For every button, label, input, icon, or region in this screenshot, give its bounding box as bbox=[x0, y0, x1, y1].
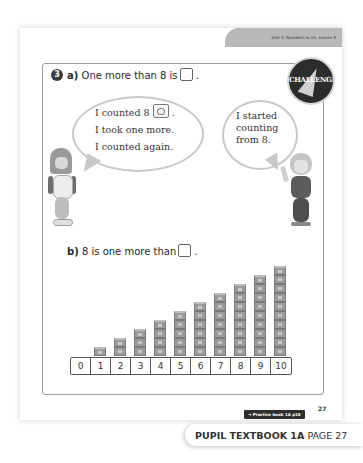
cube-stack bbox=[234, 284, 246, 356]
question-part-a: a) One more than 8 is . bbox=[67, 68, 199, 81]
answer-box-a[interactable] bbox=[180, 68, 193, 81]
cube bbox=[274, 338, 286, 347]
number-cell: 6 bbox=[191, 358, 211, 374]
footer-label: PUPIL TEXTBOOK 1A PAGE 27 bbox=[195, 430, 347, 441]
cube bbox=[114, 347, 126, 356]
number-cell: 5 bbox=[171, 358, 191, 374]
cube-stack bbox=[154, 320, 166, 356]
speech-right-line1: I started bbox=[236, 110, 278, 122]
cube bbox=[194, 347, 206, 356]
cube bbox=[234, 329, 246, 338]
boy-legs bbox=[293, 198, 309, 222]
cube bbox=[214, 302, 226, 311]
cube bbox=[194, 329, 206, 338]
challenge-label: CHALLENGE bbox=[289, 75, 333, 84]
speech-left-line2: I took one more. bbox=[95, 121, 175, 138]
cube bbox=[254, 320, 266, 329]
page-label: PAGE 27 bbox=[307, 430, 347, 441]
cube bbox=[254, 293, 266, 302]
cube-stack bbox=[174, 311, 186, 356]
cube bbox=[274, 347, 286, 356]
number-cell: 1 bbox=[91, 358, 111, 374]
cube bbox=[234, 320, 246, 329]
cube bbox=[94, 347, 106, 356]
speech-left-line1: I counted 8 bbox=[95, 107, 150, 118]
cube bbox=[254, 347, 266, 356]
cube bbox=[274, 320, 286, 329]
cube bbox=[214, 311, 226, 320]
cube-stack bbox=[194, 302, 206, 356]
girl-legs bbox=[55, 197, 69, 219]
unit-tab: Unit 1: Numbers to 10, Lesson 5 bbox=[225, 28, 342, 47]
cube bbox=[234, 311, 246, 320]
number-cell: 7 bbox=[211, 358, 231, 374]
cube bbox=[274, 293, 286, 302]
part-a-label: a) bbox=[67, 70, 78, 81]
cube bbox=[234, 338, 246, 347]
cube bbox=[134, 347, 146, 356]
cube bbox=[214, 329, 226, 338]
speech-text-left: I counted 8 . I took one more. I counted… bbox=[95, 104, 175, 155]
number-cell: 8 bbox=[231, 358, 251, 374]
number-cell: 10 bbox=[271, 358, 291, 374]
cube-stack bbox=[274, 266, 286, 356]
cube bbox=[254, 275, 266, 284]
unit-label: Unit 1: Numbers to 10, Lesson 5 bbox=[271, 35, 336, 40]
part-a-end: . bbox=[196, 70, 199, 81]
cube bbox=[194, 311, 206, 320]
cube bbox=[174, 311, 186, 320]
challenge-badge: CHALLENGE bbox=[287, 57, 335, 105]
speech-left-line3: I counted again. bbox=[95, 138, 175, 155]
cube bbox=[274, 266, 286, 275]
girl-body bbox=[53, 175, 73, 199]
book-title: PUPIL TEXTBOOK 1A bbox=[195, 430, 304, 441]
cube-stack bbox=[254, 275, 266, 356]
cube-icon bbox=[153, 104, 169, 118]
cube bbox=[254, 329, 266, 338]
girl-feet bbox=[53, 219, 73, 226]
number-cell: 3 bbox=[131, 358, 151, 374]
cube bbox=[194, 320, 206, 329]
cube bbox=[254, 302, 266, 311]
cube bbox=[274, 284, 286, 293]
cube bbox=[274, 302, 286, 311]
cube bbox=[234, 347, 246, 356]
practice-book-link[interactable]: → Practice book 1A p18 bbox=[244, 410, 305, 419]
cube-stacks bbox=[70, 250, 292, 356]
page-number: 27 bbox=[318, 405, 326, 412]
cube bbox=[274, 311, 286, 320]
cube bbox=[214, 320, 226, 329]
girl-face bbox=[55, 157, 68, 169]
question-number: 3 bbox=[51, 69, 63, 81]
number-line: 012345678910 bbox=[70, 357, 292, 375]
cube-stack bbox=[94, 347, 106, 356]
cube bbox=[194, 338, 206, 347]
cube bbox=[154, 320, 166, 329]
cube-stack bbox=[214, 293, 226, 356]
number-cell: 9 bbox=[251, 358, 271, 374]
cube bbox=[214, 347, 226, 356]
boy-feet bbox=[291, 222, 311, 226]
cube bbox=[254, 338, 266, 347]
part-a-text: One more than 8 is bbox=[82, 70, 178, 81]
speech-left-line1-end: . bbox=[172, 107, 175, 118]
number-cell: 2 bbox=[111, 358, 131, 374]
cube bbox=[174, 347, 186, 356]
cube bbox=[154, 338, 166, 347]
number-cell: 4 bbox=[151, 358, 171, 374]
cube bbox=[214, 293, 226, 302]
cube bbox=[134, 329, 146, 338]
cube bbox=[274, 275, 286, 284]
cube-stack bbox=[134, 329, 146, 356]
cube bbox=[174, 329, 186, 338]
cube bbox=[234, 293, 246, 302]
cube bbox=[174, 338, 186, 347]
cube bbox=[114, 338, 126, 347]
cube bbox=[154, 329, 166, 338]
cube bbox=[134, 338, 146, 347]
boy-body bbox=[291, 176, 311, 198]
boy-face bbox=[294, 160, 308, 173]
cube bbox=[234, 302, 246, 311]
number-cell: 0 bbox=[71, 358, 91, 374]
cube bbox=[254, 284, 266, 293]
